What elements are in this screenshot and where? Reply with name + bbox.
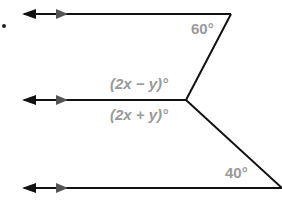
top-arrow-right-icon bbox=[56, 9, 68, 19]
angle-label-40: 40° bbox=[225, 165, 248, 180]
bottom-arrow-right-icon bbox=[56, 183, 68, 193]
angle-label-60: 60° bbox=[191, 21, 214, 36]
angle-label-2x-minus-y: (2x − y)° bbox=[110, 76, 168, 91]
angle-label-2x-plus-y: (2x + y)° bbox=[110, 107, 168, 122]
top-arrow-left-icon bbox=[22, 9, 36, 19]
middle-arrow-right-icon bbox=[56, 95, 68, 105]
bottom-arrow-left-icon bbox=[22, 183, 36, 193]
middle-arrow-left-icon bbox=[22, 95, 36, 105]
